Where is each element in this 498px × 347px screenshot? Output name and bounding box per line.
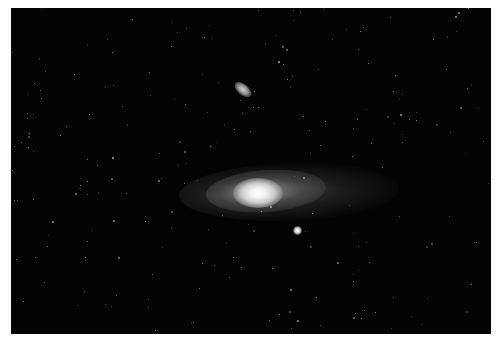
star bbox=[393, 297, 394, 298]
star bbox=[12, 52, 13, 53]
star bbox=[199, 288, 200, 289]
star bbox=[27, 118, 28, 119]
star bbox=[387, 116, 389, 118]
star bbox=[402, 142, 403, 143]
star bbox=[318, 69, 319, 70]
star bbox=[105, 87, 106, 88]
star bbox=[395, 75, 396, 76]
star bbox=[300, 12, 301, 13]
star bbox=[297, 320, 299, 322]
star bbox=[275, 35, 276, 36]
star bbox=[258, 107, 259, 108]
star bbox=[447, 36, 448, 37]
star bbox=[33, 114, 34, 115]
star bbox=[171, 211, 173, 213]
star bbox=[27, 113, 28, 114]
star bbox=[97, 165, 98, 166]
star bbox=[325, 121, 326, 122]
satellite-galaxy-lower bbox=[293, 226, 302, 235]
star bbox=[148, 299, 149, 300]
star bbox=[349, 205, 350, 206]
star bbox=[427, 298, 428, 299]
star bbox=[208, 229, 209, 230]
star bbox=[467, 88, 468, 89]
star bbox=[126, 193, 127, 194]
star bbox=[105, 304, 106, 305]
star bbox=[14, 146, 15, 147]
star bbox=[179, 141, 181, 143]
star bbox=[35, 257, 36, 258]
star bbox=[14, 200, 15, 201]
star bbox=[290, 87, 291, 88]
star bbox=[431, 243, 433, 245]
star bbox=[111, 306, 112, 307]
star bbox=[33, 199, 34, 200]
star bbox=[52, 221, 54, 223]
star bbox=[21, 142, 22, 143]
star bbox=[456, 31, 457, 32]
star bbox=[40, 90, 41, 91]
star bbox=[402, 94, 403, 95]
star bbox=[287, 79, 288, 80]
star bbox=[337, 262, 339, 264]
star bbox=[226, 243, 227, 244]
star bbox=[184, 183, 185, 184]
star bbox=[87, 194, 88, 195]
star bbox=[185, 104, 186, 105]
star bbox=[209, 25, 210, 26]
star bbox=[471, 84, 472, 85]
star bbox=[202, 263, 203, 264]
star bbox=[353, 128, 354, 129]
star bbox=[455, 16, 457, 18]
star bbox=[242, 85, 243, 86]
star bbox=[85, 257, 86, 258]
star bbox=[152, 274, 153, 275]
star bbox=[261, 211, 262, 212]
star bbox=[107, 39, 108, 40]
star bbox=[270, 206, 272, 208]
star bbox=[293, 20, 294, 21]
star bbox=[171, 228, 172, 229]
star bbox=[87, 159, 88, 160]
star bbox=[48, 235, 49, 236]
star bbox=[184, 151, 186, 153]
star bbox=[91, 230, 92, 231]
star bbox=[178, 165, 179, 166]
star bbox=[360, 31, 361, 32]
star bbox=[211, 38, 212, 39]
star bbox=[122, 106, 123, 107]
star bbox=[87, 44, 88, 45]
star bbox=[353, 317, 355, 319]
star bbox=[358, 49, 359, 50]
star bbox=[258, 10, 259, 11]
star bbox=[303, 177, 305, 179]
star bbox=[33, 151, 34, 152]
star bbox=[402, 134, 403, 135]
star bbox=[242, 113, 243, 114]
star bbox=[292, 76, 293, 77]
star bbox=[84, 291, 85, 292]
star bbox=[279, 314, 280, 315]
star bbox=[214, 265, 215, 266]
star bbox=[254, 91, 255, 92]
star bbox=[161, 178, 162, 179]
star bbox=[191, 323, 192, 324]
star bbox=[248, 224, 249, 225]
star bbox=[41, 9, 42, 10]
star bbox=[158, 180, 160, 182]
star bbox=[436, 124, 438, 126]
star bbox=[234, 129, 235, 130]
star bbox=[113, 220, 115, 222]
star bbox=[177, 32, 178, 33]
star bbox=[476, 242, 477, 243]
star bbox=[478, 108, 479, 109]
star bbox=[202, 74, 203, 75]
star bbox=[233, 257, 234, 258]
star bbox=[259, 182, 260, 183]
star bbox=[394, 123, 395, 124]
star bbox=[44, 282, 45, 283]
star bbox=[390, 17, 391, 18]
star bbox=[320, 145, 321, 146]
star bbox=[77, 305, 78, 306]
star bbox=[382, 167, 383, 168]
